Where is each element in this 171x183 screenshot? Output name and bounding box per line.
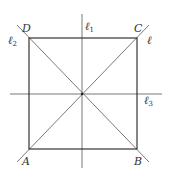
center-point xyxy=(81,93,83,95)
vertex-label-b: B xyxy=(133,155,142,168)
line-label-l2: ℓ2 xyxy=(8,34,17,48)
vertex-label-c: C xyxy=(134,22,143,35)
line-label-l1: ℓ1 xyxy=(85,20,94,34)
vertex-label-d: D xyxy=(21,22,31,35)
square-symmetry-diagram: D C A B ℓ1 ℓ2 ℓ ℓ3 xyxy=(0,0,171,183)
line-label-l3: ℓ3 xyxy=(144,94,153,108)
vertex-label-a: A xyxy=(21,155,30,168)
line-label-l: ℓ xyxy=(147,34,152,47)
